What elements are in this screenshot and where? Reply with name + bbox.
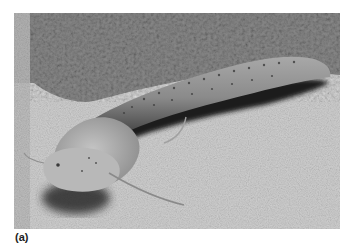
lungfish-photo [14,13,340,229]
figure-label: (a) [15,231,28,244]
figure-photo [14,13,340,229]
